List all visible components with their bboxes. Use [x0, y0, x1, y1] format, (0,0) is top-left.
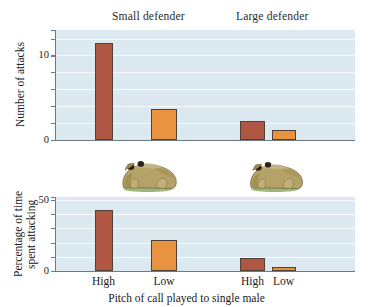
x-tick-label-high: High — [241, 275, 264, 287]
bottom-chart-y-axis-label-line2: spent attacking — [25, 199, 37, 268]
top-chart-y-tick-label: 0 — [44, 135, 49, 146]
group-header-small-defender: Small defender — [112, 10, 185, 22]
top-chart-bar — [95, 43, 113, 140]
bottom-chart-plot: 050 — [56, 197, 355, 271]
bottom-chart-plot-area — [56, 197, 355, 271]
small-toad-illustration — [112, 144, 184, 192]
group-header-row: Small defender Large defender — [0, 10, 373, 26]
bottom-chart-bar — [95, 210, 113, 271]
top-chart-y-tick-label: 10 — [39, 50, 50, 61]
bottom-chart-x-axis — [55, 271, 355, 272]
x-tick-label-low: Low — [153, 275, 174, 287]
top-chart-plot: 010 — [56, 30, 355, 140]
top-chart-bar — [151, 109, 177, 140]
top-chart-bar — [240, 121, 265, 141]
figure-panel: Small defender Large defender Number of … — [0, 0, 373, 307]
top-chart-y-tick — [51, 89, 56, 90]
bottom-chart-bar — [240, 258, 265, 271]
x-tick-label-high: High — [92, 275, 115, 287]
x-tick-label-low: Low — [273, 275, 294, 287]
top-chart-plot-area — [56, 30, 355, 140]
bottom-chart-y-axis — [55, 197, 56, 271]
bottom-chart-gridline — [56, 200, 355, 201]
top-chart-y-tick — [51, 106, 56, 107]
bottom-chart-y-axis-label: Percentage of time spent attacking — [12, 189, 38, 279]
bottom-chart-bar — [151, 240, 177, 271]
group-header-large-defender: Large defender — [236, 10, 309, 22]
bottom-chart-y-tick — [51, 243, 56, 244]
bottom-chart-y-tick — [51, 271, 56, 272]
large-toad-illustration — [240, 144, 310, 192]
x-axis-tick-labels: HighLowHighLow — [0, 275, 373, 290]
top-chart-y-tick — [51, 39, 56, 40]
top-chart-x-axis — [55, 140, 355, 141]
bottom-chart-y-axis-label-line1: Percentage of time — [12, 191, 24, 277]
top-chart-y-axis-label: Number of attacks — [14, 30, 26, 140]
bottom-chart-y-tick — [51, 214, 56, 215]
top-chart-gridline — [56, 39, 355, 40]
bottom-chart-y-tick-label: 50 — [39, 195, 50, 206]
x-axis-title: Pitch of call played to single male — [0, 292, 373, 304]
bottom-chart-y-axis-cap — [51, 197, 56, 198]
top-chart-bar — [272, 130, 296, 140]
bottom-chart-y-tick — [51, 200, 56, 201]
bottom-chart-y-tick — [51, 257, 56, 258]
top-chart-y-axis-cap — [51, 30, 56, 31]
bottom-chart-y-tick — [51, 228, 56, 229]
top-chart-y-tick — [51, 72, 56, 73]
top-chart-y-tick — [51, 140, 56, 141]
top-chart-y-tick — [51, 55, 56, 56]
top-chart-y-tick — [51, 123, 56, 124]
